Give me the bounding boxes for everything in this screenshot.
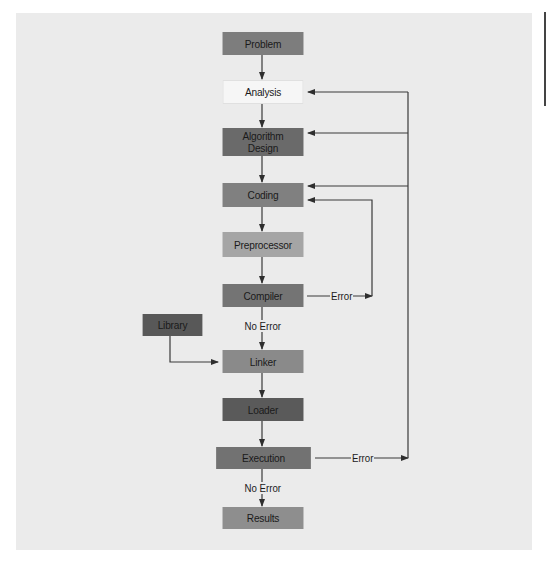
node-linker-label: Linker xyxy=(250,356,276,368)
edge-label-compiler-error: Error xyxy=(330,290,353,302)
node-algorithm-label-line1: Algorithm xyxy=(242,130,283,142)
node-coding-label: Coding xyxy=(248,189,279,201)
edge-label-compiler-no-error: No Error xyxy=(244,320,282,332)
edge-label-execution-error: Error xyxy=(351,452,374,464)
node-preprocessor-label: Preprocessor xyxy=(234,239,292,251)
edge-label-execution-no-error: No Error xyxy=(244,482,282,494)
node-results-label: Results xyxy=(247,512,279,524)
node-library: Library xyxy=(143,314,203,336)
node-linker: Linker xyxy=(223,350,304,373)
node-loader: Loader xyxy=(223,398,304,421)
node-problem: Problem xyxy=(223,32,304,55)
node-compiler: Compiler xyxy=(223,284,304,307)
node-preprocessor: Preprocessor xyxy=(223,232,304,257)
node-analysis: Analysis xyxy=(223,80,304,104)
node-execution-label: Execution xyxy=(242,452,285,464)
node-loader-label: Loader xyxy=(248,404,278,416)
node-execution: Execution xyxy=(216,447,311,469)
node-compiler-label: Compiler xyxy=(243,290,282,302)
node-algorithm-design: Algorithm Design xyxy=(223,128,304,156)
node-coding: Coding xyxy=(223,183,304,207)
node-results: Results xyxy=(223,507,304,529)
node-algorithm-label-line2: Design xyxy=(248,142,278,154)
node-problem-label: Problem xyxy=(245,38,281,50)
node-library-label: Library xyxy=(158,319,188,331)
node-analysis-label: Analysis xyxy=(245,86,281,98)
